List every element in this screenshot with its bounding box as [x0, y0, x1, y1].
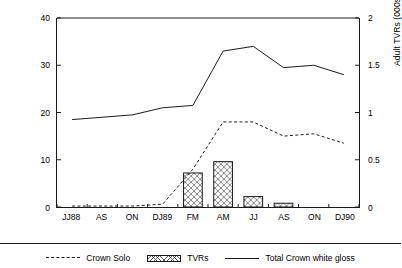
y-axis-left-tick-10: 10: [26, 155, 50, 165]
y-axis-left-tick-0: 0: [26, 203, 50, 213]
x-axis-tick-label: AS: [278, 212, 289, 222]
legend-item-tvrs: TVRs: [147, 253, 208, 263]
legend-item-crown-solo: Crown Solo: [46, 253, 130, 263]
y-axis-right-ticks: [355, 18, 359, 207]
solid-line-swatch-icon: [225, 258, 259, 259]
x-axis-tick-label: ON: [126, 212, 139, 222]
x-axis-tick-label: DJ89: [152, 212, 172, 222]
y-axis-right-title: Adult TVRs (000s): [392, 0, 402, 66]
line-series-crown-solo: [72, 122, 344, 206]
y-axis-left-tick-40: 40: [26, 13, 50, 23]
x-axis-tick-label: ON: [308, 212, 321, 222]
y-axis-right-tick-1p5: 1.5: [368, 60, 394, 70]
x-axis-tick-label: DJ90: [335, 212, 355, 222]
chart-legend: Crown Solo TVRs Total Crown white gloss: [0, 243, 401, 268]
hatched-bar-swatch-icon: [147, 255, 181, 262]
bar-series-tvrs: [184, 162, 293, 207]
x-axis-tick-label: FM: [187, 212, 199, 222]
legend-label: TVRs: [187, 253, 208, 263]
y-axis-left-tick-20: 20: [26, 108, 50, 118]
dashed-line-swatch-icon: [46, 257, 80, 259]
y-axis-left-tick-30: 30: [26, 60, 50, 70]
x-axis-tick-label: AS: [96, 212, 107, 222]
plot-area: [56, 18, 360, 208]
legend-label: Crown Solo: [86, 253, 130, 263]
x-axis-ticks: [57, 204, 359, 207]
line-series-total-crown-white-gloss: [72, 46, 344, 119]
legend-label: Total Crown white gloss: [265, 253, 354, 263]
y-axis-left-ticks: [57, 18, 61, 207]
x-axis-tick-label: JJ: [249, 212, 258, 222]
plot-svg: [57, 18, 359, 207]
y-axis-right-tick-1: 1: [368, 108, 394, 118]
y-axis-right-tick-0: 0: [368, 203, 394, 213]
y-axis-right-tick-2: 2: [368, 13, 394, 23]
y-axis-right-tick-0p5: 0.5: [368, 155, 394, 165]
x-axis-tick-label: AM: [217, 212, 230, 222]
x-axis-tick-label: JJ88: [62, 212, 80, 222]
legend-item-total-crown-white-gloss: Total Crown white gloss: [225, 253, 354, 263]
